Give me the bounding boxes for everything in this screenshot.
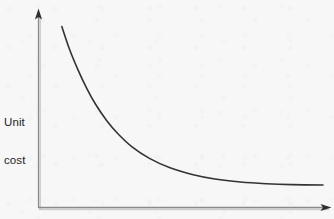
y-axis-label-line-2: cost	[4, 154, 26, 167]
unit-cost-plot	[0, 0, 334, 219]
y-axis-group	[35, 9, 42, 208]
y-axis-label: Unit cost	[4, 91, 26, 192]
chart-figure: Unit cost	[0, 0, 334, 219]
axis-shadow-group	[39, 16, 329, 209]
y-axis-label-line-1: Unit	[4, 116, 26, 129]
unit-cost-curve	[62, 27, 323, 185]
